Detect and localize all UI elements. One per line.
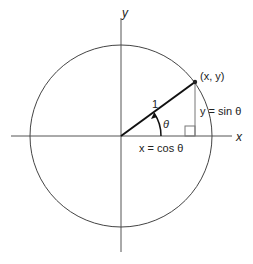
sin-label: y = sin θ [200,105,241,117]
angle-label: θ [163,118,169,130]
right-angle-marker [185,126,195,136]
radius-label: 1 [152,98,158,110]
point-label: (x, y) [200,70,224,82]
unit-circle-diagram: y x (x, y) 1 θ y = sin θ x = cos θ [0,0,253,264]
cos-label: x = cos θ [139,142,183,154]
point-marker [193,80,197,84]
x-axis-label: x [235,130,243,144]
y-axis-label: y [121,6,129,20]
